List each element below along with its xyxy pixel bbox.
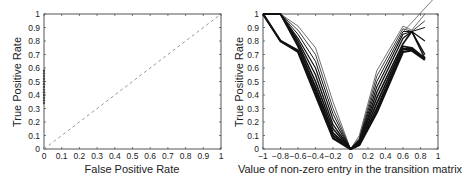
x-tick-label: 0.8: [180, 151, 192, 161]
x-tick-label: 0.3: [91, 151, 103, 161]
tpr-curve: [263, 14, 425, 149]
x-tick-label: 1: [436, 151, 441, 161]
roc-point: [43, 80, 45, 82]
roc-point: [43, 91, 45, 93]
y-tick-label: 0.4: [247, 90, 259, 100]
x-tick-label: −0.4: [307, 151, 324, 161]
x-tick-label: 0.2: [73, 151, 85, 161]
tpr-curves: [263, 14, 425, 149]
tpr-vs-value-plot: −1−0.8−0.6−0.4−0.200.20.40.60.8100.10.20…: [233, 0, 463, 175]
right-x-axis-label: Value of non-zero entry in the transitio…: [238, 163, 463, 175]
roc-point: [43, 99, 45, 101]
y-tick-label: 0.3: [28, 104, 40, 114]
diagonal-reference-line: [44, 14, 221, 149]
x-tick-label: 0.1: [56, 151, 68, 161]
x-tick-label: −0.2: [325, 151, 342, 161]
y-tick-label: 0.5: [247, 77, 259, 87]
y-tick-label: 0.8: [247, 36, 259, 46]
y-tick-label: 0.1: [28, 131, 40, 141]
roc-point: [43, 70, 45, 72]
y-tick-label: 0.5: [28, 77, 40, 87]
y-tick-label: 1: [254, 9, 259, 19]
x-tick-label: 0.4: [109, 151, 121, 161]
roc-point: [43, 78, 45, 80]
tpr-curve: [263, 14, 425, 149]
curve-extension-line: [404, 0, 438, 31]
x-tick-label: −0.8: [272, 151, 289, 161]
y-tick-label: 0.8: [28, 36, 40, 46]
x-tick-label: 0.2: [362, 151, 374, 161]
tpr-curve: [263, 14, 425, 149]
y-tick-label: 0.2: [247, 117, 259, 127]
x-tick-label: 1: [219, 151, 224, 161]
roc-point: [43, 94, 45, 96]
x-tick-label: 0.8: [415, 151, 427, 161]
x-tick-label: 0.4: [380, 151, 392, 161]
y-tick-label: 0.3: [247, 104, 259, 114]
x-tick-label: 0.5: [127, 151, 139, 161]
roc-point: [43, 83, 45, 85]
left-y-axis-label: True Positive Rate: [11, 37, 23, 127]
tpr-curve: [263, 14, 425, 149]
right-y-axis-label: True Positive Rate: [233, 37, 245, 127]
y-tick-label: 0.7: [28, 50, 40, 60]
tpr-curve: [263, 14, 425, 149]
x-tick-label: 0.6: [144, 151, 156, 161]
x-tick-label: −1: [258, 151, 268, 161]
right-axes-frame: [263, 14, 438, 149]
y-tick-label: 0: [254, 144, 259, 154]
figure: 00.10.20.30.40.50.60.70.80.9100.10.20.30…: [0, 0, 465, 184]
tpr-curve: [263, 14, 425, 149]
x-tick-label: 0: [348, 151, 353, 161]
y-tick-label: 0.7: [247, 50, 259, 60]
x-tick-label: 0.6: [397, 151, 409, 161]
left-x-axis-label: False Positive Rate: [85, 163, 180, 175]
y-tick-label: 0.1: [247, 131, 259, 141]
y-tick-label: 0.4: [28, 90, 40, 100]
tpr-curve: [263, 14, 425, 149]
x-tick-label: −0.6: [290, 151, 307, 161]
y-tick-label: 0.9: [247, 23, 259, 33]
y-tick-label: 0.9: [28, 23, 40, 33]
roc-point: [43, 75, 45, 77]
y-tick-label: 0.2: [28, 117, 40, 127]
y-tick-label: 0.6: [247, 63, 259, 73]
roc-point: [43, 97, 45, 99]
roc-point: [43, 102, 45, 104]
x-tick-label: 0.7: [162, 151, 174, 161]
tpr-curve: [263, 14, 425, 149]
y-tick-label: 0: [35, 144, 40, 154]
left-ticks: 00.10.20.30.40.50.60.70.80.9100.10.20.30…: [28, 9, 223, 161]
roc-point: [43, 88, 45, 90]
y-tick-label: 1: [35, 9, 40, 19]
x-tick-label: 0.9: [197, 151, 209, 161]
x-tick-label: 0: [42, 151, 47, 161]
roc-point: [43, 86, 45, 88]
roc-point: [43, 72, 45, 74]
y-tick-label: 0.6: [28, 63, 40, 73]
tpr-curve: [263, 14, 425, 149]
roc-plot: 00.10.20.30.40.50.60.70.80.9100.10.20.30…: [11, 9, 224, 175]
